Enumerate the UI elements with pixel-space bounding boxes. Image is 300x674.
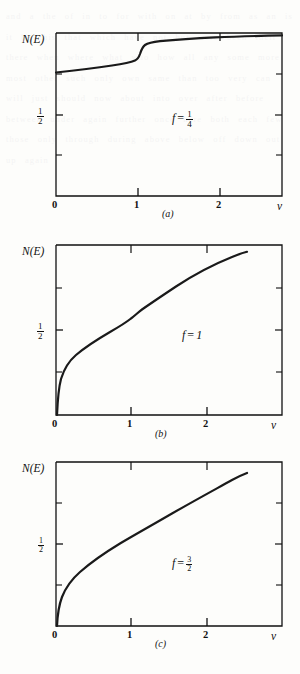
plot-svg-c [0, 450, 300, 674]
x-axis-label-a: ν [277, 200, 282, 212]
x-tick-label-a-1: 1 [134, 199, 139, 210]
annotation-f-a: f= 1 4 [172, 110, 193, 129]
x-tick-label-b-2: 2 [203, 418, 208, 429]
x-tick-label-c-0: 0 [52, 629, 57, 640]
x-tick-label-b-1: 1 [127, 418, 132, 429]
y-tick-label-b: 1 2 [37, 322, 44, 342]
plot-svg-b [0, 225, 300, 450]
x-tick-label-b-0: 0 [52, 418, 57, 429]
x-axis-label-b: ν [271, 419, 276, 431]
plot-panel-c: N(E) 1 2 0 1 2 ν f= 3 2 (c) [0, 450, 300, 674]
x-axis-label-c: ν [271, 630, 276, 642]
axis-frame [56, 245, 282, 415]
plot-svg-a [0, 0, 300, 225]
y-tick-label-a: 1 2 [37, 107, 44, 127]
axis-frame [56, 462, 282, 626]
curve-f-three-halves [57, 473, 247, 626]
y-tick-label-c: 1 2 [38, 536, 44, 555]
figure-page: and a the of in to for with on at by fro… [0, 0, 300, 674]
x-tick-label-a-2: 2 [216, 199, 221, 210]
annotation-f-b: f=1 [182, 328, 202, 343]
axis-frame [56, 33, 282, 196]
plot-panel-b: N(E) 1 2 0 1 2 ν f=1 (b) [0, 225, 300, 450]
y-axis-label-a: N(E) [22, 33, 44, 45]
curve-f-quarter [56, 35, 282, 72]
x-tick-label-a-0: 0 [52, 199, 57, 210]
y-axis-label-b: N(E) [22, 245, 44, 257]
annotation-f-c: f= 3 2 [172, 556, 192, 573]
plot-panel-a: N(E) 1 2 0 1 2 ν f= 1 4 (a) [0, 0, 300, 225]
panel-caption-a: (a) [162, 208, 174, 219]
curve-f-one [57, 252, 247, 415]
y-axis-label-c: N(E) [22, 462, 44, 474]
x-tick-label-c-2: 2 [203, 629, 208, 640]
x-tick-label-c-1: 1 [127, 629, 132, 640]
panel-caption-b: (b) [155, 428, 167, 439]
panel-caption-c: (c) [155, 638, 166, 649]
